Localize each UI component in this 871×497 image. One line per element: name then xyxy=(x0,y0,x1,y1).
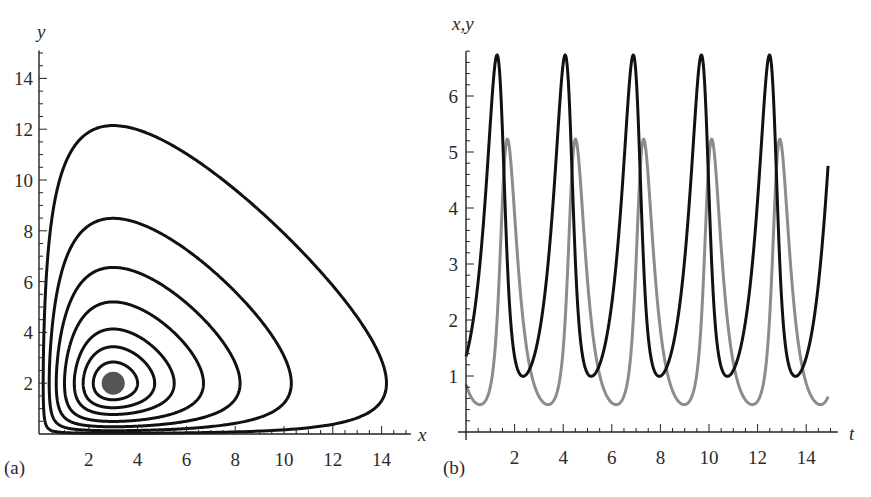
series-y-curve xyxy=(466,139,828,404)
panel-a-xlabel: x xyxy=(417,424,427,445)
x-tick-label: 4 xyxy=(558,447,568,468)
y-tick-label: 3 xyxy=(449,254,459,275)
x-tick-label: 2 xyxy=(84,449,94,470)
panel-a-ylabel: y xyxy=(35,21,46,42)
x-tick-label: 10 xyxy=(700,447,719,468)
panel-b-time-series: 2468101214123456 x,y t (b) xyxy=(443,13,855,479)
y-tick-label: 10 xyxy=(14,170,33,191)
x-tick-label: 14 xyxy=(797,447,817,468)
panel-a-orbits xyxy=(43,126,386,434)
x-tick-label: 14 xyxy=(372,449,392,470)
x-tick-label: 8 xyxy=(656,447,666,468)
fixed-point-marker xyxy=(102,372,125,395)
y-tick-label: 2 xyxy=(24,373,34,394)
x-tick-label: 12 xyxy=(323,449,342,470)
y-tick-label: 4 xyxy=(449,198,459,219)
x-tick-label: 2 xyxy=(510,447,520,468)
panel-a-axes: 24681012142468101214 xyxy=(14,50,411,470)
x-tick-label: 4 xyxy=(133,449,143,470)
panel-b-label: (b) xyxy=(443,457,465,479)
y-tick-label: 1 xyxy=(449,366,459,387)
y-tick-label: 2 xyxy=(449,310,459,331)
panel-a-phase-portrait: 24681012142468101214 y x (a) xyxy=(4,21,427,479)
figure: 24681012142468101214 y x (a) 24681012141… xyxy=(0,0,871,497)
x-tick-label: 8 xyxy=(230,449,240,470)
y-tick-label: 4 xyxy=(24,322,34,343)
y-tick-label: 6 xyxy=(24,272,34,293)
y-tick-label: 12 xyxy=(14,119,33,140)
panel-b-ylabel: x,y xyxy=(451,13,474,34)
x-tick-label: 12 xyxy=(748,447,767,468)
y-tick-label: 6 xyxy=(449,86,459,107)
panel-a-label: (a) xyxy=(4,457,25,479)
orbit-curve xyxy=(49,218,291,430)
y-tick-label: 8 xyxy=(24,221,34,242)
panel-b-xlabel: t xyxy=(849,423,855,444)
x-tick-label: 6 xyxy=(182,449,192,470)
y-tick-label: 5 xyxy=(449,142,459,163)
x-tick-label: 6 xyxy=(607,447,617,468)
x-tick-label: 10 xyxy=(275,449,294,470)
panel-b-curves xyxy=(466,55,828,405)
y-tick-label: 14 xyxy=(14,68,34,89)
